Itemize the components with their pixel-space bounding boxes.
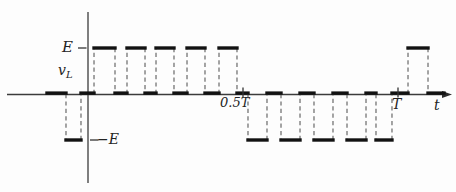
y-axis-title: vL [58,63,73,80]
y-axis-subscript: L [66,69,73,80]
y-tick-label-E: E [62,40,73,55]
x-axis-title: t [434,98,440,112]
x-tick-label-T: T [392,97,401,111]
x-tick-label-half-T: 0.5T [220,96,249,109]
y-axis-symbol: v [58,62,66,78]
y-tick-label-negE: −E [97,132,119,146]
waveform-figure: E vL −E 0.5T T t [0,0,456,192]
